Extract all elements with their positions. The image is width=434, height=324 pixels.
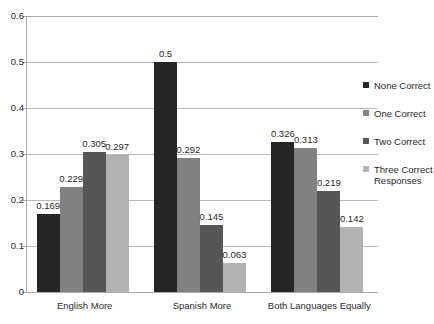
legend-item-label: Three Correct Responses [374,164,433,186]
bar [294,148,317,292]
bar-value-label: 0.219 [311,178,346,188]
bar-chart: 00.10.20.30.40.50.6 0.1690.2290.3050.297… [0,0,434,324]
legend-item[interactable]: Two Correct [363,136,425,147]
legend-swatch-icon [363,166,369,172]
y-axis-tick-label: 0.3 [0,149,24,159]
y-axis-tick-label: 0.1 [0,241,24,251]
y-axis-tick-label: 0 [0,287,24,297]
legend-item-label: Two Correct [374,136,425,147]
y-axis-tick-label: 0.4 [0,103,24,113]
plot-area: 0.1690.2290.3050.2970.50.2920.1450.0630.… [27,16,378,292]
legend-swatch-icon [363,138,369,144]
bar-value-label: 0.313 [288,135,323,145]
legend-swatch-icon [363,82,369,88]
bar-value-label: 0.142 [334,214,369,224]
legend-swatch-icon [363,110,369,116]
y-axis-tick-label: 0.5 [0,57,24,67]
y-axis-tick-label: 0.2 [0,195,24,205]
bar-group: 0.3260.3130.2190.142 [27,16,378,292]
legend-item[interactable]: One Correct [363,108,426,119]
x-axis-category-label: Both Languages Equally [261,301,378,311]
legend-item[interactable]: None Correct [363,80,431,91]
x-axis-category-label: Spanish More [143,301,260,311]
gridline [26,292,378,293]
legend-item-label: None Correct [374,80,431,91]
legend-item[interactable]: Three Correct Responses [363,164,433,186]
legend-item-label: One Correct [374,108,426,119]
bar [271,142,294,292]
x-axis-category-label: English More [26,301,143,311]
bar [340,227,363,292]
y-axis-tick-label: 0.6 [0,11,24,21]
bar [317,191,340,292]
